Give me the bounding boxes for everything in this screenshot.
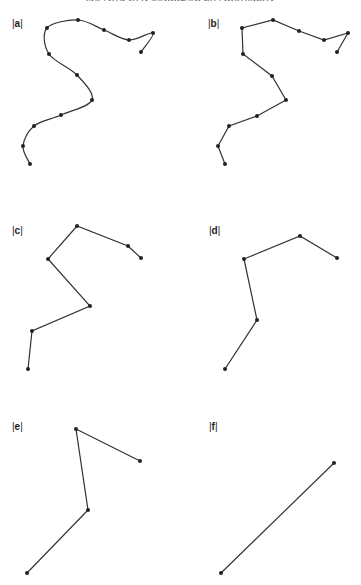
waypoint-dot [242, 257, 246, 261]
waypoint-dot [223, 162, 227, 166]
waypoint-dot [75, 73, 79, 77]
waypoint-dot [255, 114, 259, 118]
panel-c [26, 224, 143, 371]
waypoint-dot [138, 459, 142, 463]
panel-label-b: |b| [208, 18, 219, 29]
waypoint-dot [45, 26, 49, 30]
waypoint-dot [227, 124, 231, 128]
path-line [218, 20, 348, 164]
waypoint-dot [59, 113, 63, 117]
waypoint-dot [46, 257, 50, 261]
waypoint-dot [32, 124, 36, 128]
panel-label-e: |e| [12, 421, 23, 432]
panel-label-c: |c| [12, 225, 23, 236]
waypoint-dot [86, 508, 90, 512]
waypoint-dot [126, 244, 130, 248]
panel-label-d: |d| [209, 225, 220, 236]
waypoint-dot [30, 329, 34, 333]
waypoint-dot [21, 144, 25, 148]
path-line [27, 429, 140, 573]
waypoint-dot [139, 50, 143, 54]
panel-f [219, 461, 336, 575]
panel-d [223, 234, 339, 371]
waypoint-dot [298, 234, 302, 238]
path-line [225, 236, 337, 369]
waypoint-dot [297, 29, 301, 33]
waypoint-dot [76, 18, 80, 22]
waypoint-dot [219, 571, 223, 575]
waypoint-dot [223, 367, 227, 371]
waypoint-dot [139, 256, 143, 260]
waypoint-dot [284, 98, 288, 102]
panel-label-a: |a| [12, 18, 23, 29]
waypoint-dot [335, 256, 339, 260]
panel-label-f: |f| [209, 421, 218, 432]
panel-e [25, 427, 142, 575]
waypoint-dot [332, 461, 336, 465]
waypoint-dot [270, 74, 274, 78]
waypoint-dot [74, 427, 78, 431]
waypoint-dot [47, 52, 51, 56]
waypoint-dot [346, 31, 350, 35]
waypoint-dot [102, 28, 106, 32]
waypoint-dot [88, 304, 92, 308]
waypoint-dot [151, 31, 155, 35]
waypoint-dot [75, 224, 79, 228]
waypoint-dot [26, 367, 30, 371]
waypoint-dot [240, 26, 244, 30]
waypoint-dot [90, 98, 94, 102]
path-simplification-diagram [0, 0, 361, 585]
waypoint-dot [335, 50, 339, 54]
waypoint-dot [28, 162, 32, 166]
waypoint-dot [241, 52, 245, 56]
waypoint-dot [216, 144, 220, 148]
waypoint-dot [322, 38, 326, 42]
waypoint-dot [271, 18, 275, 22]
panel-a [21, 18, 155, 166]
waypoint-dot [25, 571, 29, 575]
path-line [221, 463, 334, 573]
panel-b [216, 18, 350, 166]
path-line [28, 226, 141, 369]
waypoint-dot [127, 38, 131, 42]
waypoint-dot [255, 318, 259, 322]
path-line [23, 20, 153, 164]
